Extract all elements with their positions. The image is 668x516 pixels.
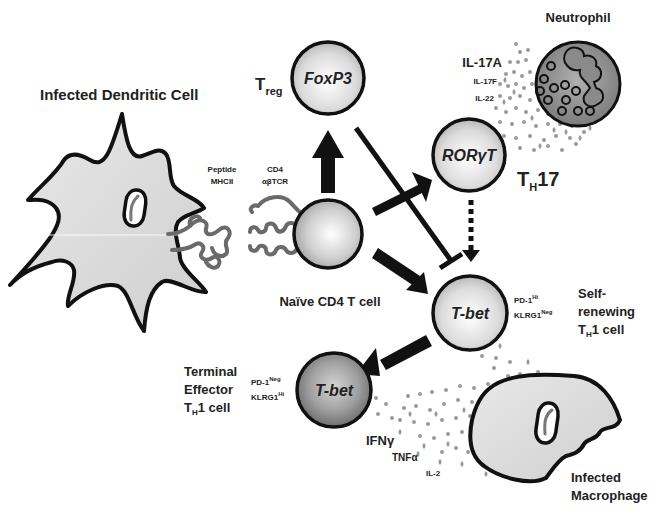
th1-terminal-label-line1: Terminal bbox=[184, 364, 237, 379]
cytokine-il17a: IL-17A bbox=[462, 55, 502, 70]
th1-terminal-marker-klrg1: KLRG1Hi bbox=[251, 391, 284, 402]
neutrophil bbox=[536, 42, 620, 126]
mhc-label-line2: MHCII bbox=[211, 177, 234, 186]
cytokine-ifng: IFNγ bbox=[366, 433, 395, 448]
tcr-label-line2: αβTCR bbox=[262, 177, 288, 186]
th17-cell: RORγT bbox=[433, 119, 505, 191]
th1-self-label-line2: renewing bbox=[578, 304, 635, 319]
th1-self-label-line1: Self- bbox=[578, 286, 606, 301]
tbet-self-label: T-bet bbox=[451, 305, 490, 322]
cytokine-il17f: IL-17F bbox=[473, 77, 497, 86]
naive-cell-label: Naïve CD4 T cell bbox=[279, 294, 380, 309]
th1-terminal-label-line2: Effector bbox=[184, 382, 233, 397]
macrophage-label-line2: Macrophage bbox=[571, 488, 648, 503]
th17-label: TH17 bbox=[517, 168, 559, 193]
dendritic-cell bbox=[10, 114, 290, 331]
t-cell-differentiation-diagram: Infected Dendritic Cell Peptide MHCII CD… bbox=[0, 0, 668, 516]
cytokine-il22: IL-22 bbox=[475, 94, 494, 103]
th1-self-renewing-cell: T-bet bbox=[433, 276, 507, 350]
mhc-label-line1: Peptide bbox=[208, 165, 237, 174]
infected-macrophage bbox=[470, 375, 620, 482]
roryt-label: RORγT bbox=[442, 147, 497, 164]
treg-cell: FoxP3 bbox=[292, 42, 364, 114]
pathogen-vacuole-icon bbox=[123, 189, 148, 227]
dashed-arrow-th17-to-th1 bbox=[462, 200, 480, 262]
th1-self-label-line3: TH1 cell bbox=[578, 322, 624, 339]
arrow-naive-to-treg bbox=[312, 130, 344, 193]
arrow-th1-self-to-terminal bbox=[356, 335, 432, 376]
th1-terminal-marker-pd1: PD-1Neg bbox=[251, 376, 281, 387]
naive-cd4-t-cell bbox=[294, 200, 362, 268]
tbet-terminal-label: T-bet bbox=[315, 382, 354, 399]
pathogen-vacuole-icon bbox=[534, 402, 559, 444]
arrow-naive-to-th17 bbox=[372, 172, 432, 216]
tcr-label-line1: CD4 bbox=[267, 165, 284, 174]
neutrophil-label: Neutrophil bbox=[546, 10, 611, 25]
th1-self-marker-klrg1: KLRG1Neg bbox=[514, 309, 553, 320]
macrophage-label-line1: Infected bbox=[571, 470, 621, 485]
arrow-naive-to-th1-self bbox=[372, 248, 428, 294]
cytokine-tnfa: TNFα bbox=[392, 452, 418, 463]
th1-terminal-effector-cell: T-bet bbox=[297, 353, 371, 427]
th1-self-marker-pd1: PD-1Hi bbox=[514, 294, 539, 305]
cytokine-il2: IL-2 bbox=[426, 469, 441, 478]
treg-label: Treg bbox=[255, 75, 283, 97]
th1-terminal-label-line3: TH1 cell bbox=[184, 400, 230, 417]
dendritic-cell-body bbox=[10, 114, 206, 331]
dendritic-cell-label: Infected Dendritic Cell bbox=[40, 86, 198, 103]
foxp3-label: FoxP3 bbox=[304, 70, 352, 87]
